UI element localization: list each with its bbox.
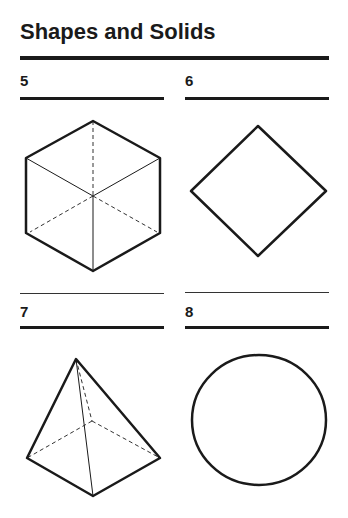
cube-icon	[0, 105, 174, 285]
answer-line-6[interactable]	[185, 97, 329, 100]
item-number-5: 5	[20, 72, 28, 89]
square-pyramid-icon	[0, 340, 174, 518]
answer-line-7[interactable]	[20, 326, 164, 329]
item-number-6: 6	[185, 72, 193, 89]
separator-line-left	[20, 293, 164, 294]
answer-line-8[interactable]	[185, 326, 329, 329]
title-rule	[20, 56, 329, 60]
item-number-8: 8	[185, 303, 193, 320]
item-number-7: 7	[20, 303, 28, 320]
page-title: Shapes and Solids	[20, 19, 216, 45]
answer-line-5[interactable]	[20, 97, 164, 100]
square-icon	[174, 105, 348, 285]
separator-line-right	[185, 292, 329, 293]
circle-icon	[174, 340, 348, 518]
